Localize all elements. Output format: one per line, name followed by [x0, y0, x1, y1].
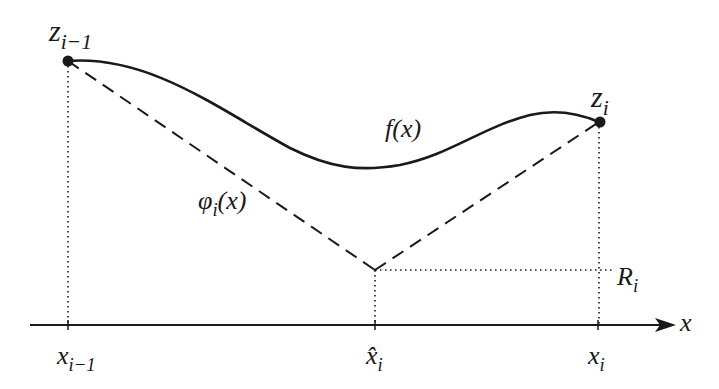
tick-label-x-cur-sub: i	[600, 354, 605, 375]
diagram-canvas	[0, 0, 719, 389]
label-z-prev-sub: i−1	[61, 30, 92, 54]
label-f-of-x: f(x)	[385, 116, 421, 142]
tick-label-x-prev-base: x	[57, 341, 69, 370]
label-r-base: R	[617, 262, 633, 291]
label-z-prev: zi−1	[49, 16, 92, 53]
tick-label-x-cur: xi	[588, 343, 605, 374]
label-z-cur-sub: i	[603, 96, 609, 120]
label-phi-base: φ	[198, 186, 212, 215]
label-r: Ri	[617, 264, 638, 295]
tick-label-x-hat: x̂i	[366, 343, 383, 374]
label-z-prev-base: z	[49, 14, 61, 47]
tick-label-x-cur-base: x	[588, 341, 600, 370]
label-phi-tail: (x)	[218, 186, 247, 215]
label-r-sub: i	[633, 275, 638, 296]
dashed-line-right	[375, 122, 599, 270]
label-z-cur: zi	[591, 82, 609, 119]
tick-label-x-hat-sub: i	[378, 354, 383, 375]
point-z-prev	[63, 56, 74, 67]
tick-label-x-prev: xi−1	[57, 343, 96, 374]
dashed-line-left	[68, 61, 375, 270]
tick-label-x-hat-base: x̂	[366, 341, 378, 370]
label-z-cur-base: z	[591, 80, 603, 113]
label-phi: φi(x)	[198, 188, 246, 219]
label-axis-x: x	[680, 310, 692, 336]
tick-label-x-prev-sub: i−1	[69, 354, 96, 375]
point-vertex	[374, 269, 377, 272]
